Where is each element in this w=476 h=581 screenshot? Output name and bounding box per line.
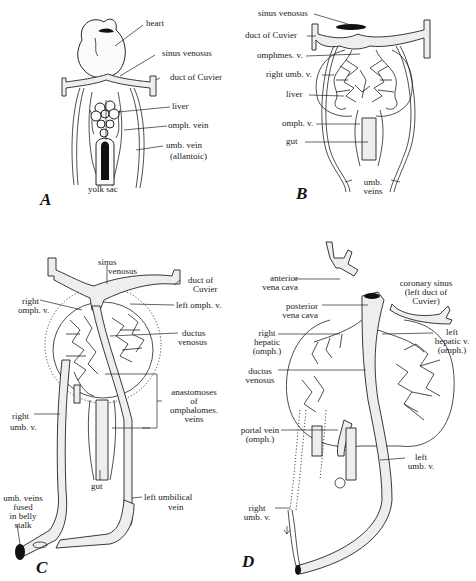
label-left-omph-v: left omph. v. xyxy=(176,301,221,311)
label-ductus-venosus-2: venosus xyxy=(178,338,207,348)
panel-letter-d: D xyxy=(242,552,254,572)
label-right-umb-v: right umb. v. xyxy=(266,70,312,80)
label-anterior-vena-cava-2: vena cava xyxy=(248,283,298,293)
label-omphmes-v: omphmes. v. xyxy=(257,51,303,61)
label-liver: liver xyxy=(172,102,189,112)
label-duct-of-cuvier: duct of Cuvier xyxy=(170,73,222,83)
panel-letter-c: C xyxy=(36,558,47,578)
label-sinus-venosus: sinus venosus xyxy=(258,9,308,19)
label-liver: liver xyxy=(286,90,303,100)
label-umb-veins-2: veins xyxy=(356,187,390,197)
label-left-umbilical-vein-2: vein xyxy=(168,503,184,513)
label-portal-vein-2: (omph.) xyxy=(236,435,284,445)
label-right-umb-v: right xyxy=(12,412,29,422)
panel-letter-b: B xyxy=(296,184,307,204)
label-right-hepatic-3: (omph.) xyxy=(250,347,284,357)
label-left-hepatic-3: (omph.) xyxy=(430,346,474,356)
label-sinus-venosus-2: venosus xyxy=(108,267,137,277)
label-right-umb-v-2: umb. v. xyxy=(10,423,37,433)
label-umb-vein: umb. vein xyxy=(166,141,202,151)
label-gut: gut xyxy=(91,482,103,492)
label-right-omph-v-2: omph. v. xyxy=(18,306,49,316)
label-posterior-vena-cava-2: vena cava xyxy=(268,311,318,321)
label-coronary-sinus-3: Cuvier) xyxy=(386,297,466,307)
label-umb-vein-allantoic: (allantoic) xyxy=(170,152,207,162)
label-heart: heart xyxy=(146,19,164,29)
label-sinus-venosus: sinus venosus xyxy=(162,49,212,59)
label-yolk-sac: yolk sac xyxy=(88,185,118,195)
label-ductus-venosus-2: venosus xyxy=(242,376,278,386)
label-omph-vein: omph. vein xyxy=(168,121,209,131)
label-duct-of-cuvier: duct of Cuvier xyxy=(245,31,297,41)
panel-letter-a: A xyxy=(40,190,51,210)
label-omph-v: omph. v. xyxy=(282,119,313,129)
label-duct-of-cuvier-2: Cuvier xyxy=(193,285,218,295)
label-umb-veins-fused-4: stalk xyxy=(0,521,46,531)
label-right-umb-v-2: umb. v. xyxy=(240,513,274,523)
label-left-umb-v-2: umb. v. xyxy=(404,462,438,472)
label-gut: gut xyxy=(286,137,298,147)
label-anastomoses-veins: veins xyxy=(160,415,228,425)
